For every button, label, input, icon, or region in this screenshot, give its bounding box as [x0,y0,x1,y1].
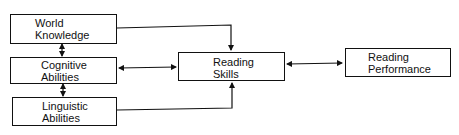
node-label-line2: Abilities [42,112,80,124]
node-reading-performance: Reading Performance [345,48,451,77]
edge-cognitive-reading-skills [119,67,176,68]
edge-skills-performance [287,63,342,64]
node-label-line2: Abilities [41,71,79,83]
node-label-line1: Reading [368,51,409,63]
node-label-line2: Performance [368,63,431,75]
node-reading-skills: Reading Skills [178,52,285,81]
node-label-line1: World [35,17,64,29]
node-cognitive-abilities: Cognitive Abilities [10,57,117,84]
node-world-knowledge: World Knowledge [10,14,117,44]
node-label-line1: Reading [213,56,254,68]
node-linguistic-abilities: Linguistic Abilities [12,97,117,126]
node-label-line1: Cognitive [41,59,87,71]
node-label-line2: Skills [213,68,239,80]
node-label-line1: Linguistic [42,100,88,112]
node-label-line2: Knowledge [35,29,89,41]
edge-world-reading-skills [117,25,231,50]
edge-linguistic-reading-skills [117,83,232,110]
